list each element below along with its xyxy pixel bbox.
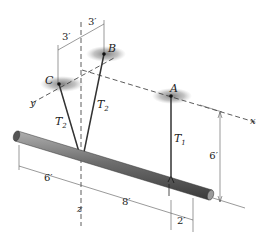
label-t2-right: T2	[97, 98, 109, 113]
label-point-b: B	[107, 42, 116, 55]
dim-top-right: 3′	[88, 16, 97, 27]
point-c-dot	[57, 82, 61, 86]
dim-top-left: 3′	[62, 31, 71, 42]
statics-diagram: C B A y x z T2 T2 T1 3′ 3′ 6′ 6′ 8′ 2′	[0, 0, 268, 246]
ext-line-height-bottom	[213, 198, 245, 208]
label-axis-y: y	[29, 97, 36, 108]
label-axis-z: z	[76, 203, 83, 214]
dim-bottom-mid: 8′	[122, 196, 131, 207]
label-point-c: C	[45, 74, 54, 87]
dim-bottom-right: 2′	[177, 215, 186, 226]
support-b	[86, 46, 126, 62]
label-t2-left: T2	[55, 115, 67, 130]
dim-height: 6′	[209, 150, 218, 161]
point-b-dot	[102, 52, 106, 56]
label-point-a: A	[169, 82, 178, 95]
ext-line-height-top	[200, 105, 222, 112]
label-t1: T1	[174, 132, 186, 147]
dim-bottom-left: 6′	[44, 172, 53, 183]
label-axis-x: x	[250, 115, 256, 126]
